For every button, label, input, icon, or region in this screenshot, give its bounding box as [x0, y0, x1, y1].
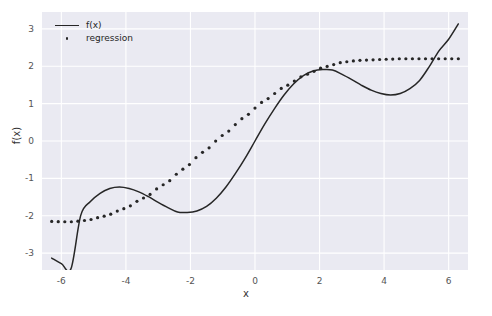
x-tick-label: 2 [317, 276, 323, 286]
x-axis-label: x [0, 288, 492, 299]
plot-area: f(x) regression [42, 12, 468, 270]
legend-entry-regression: regression [54, 32, 133, 45]
y-tick-label: -2 [8, 211, 34, 221]
y-tick-label: -3 [8, 248, 34, 258]
legend-entry-fx: f(x) [54, 19, 133, 32]
x-tick-label: -4 [121, 276, 130, 286]
legend-label-fx: f(x) [86, 19, 102, 32]
line-swatch-icon [54, 25, 80, 27]
x-tick-label: 6 [446, 276, 452, 286]
dot-swatch-icon [54, 37, 80, 40]
y-tick-label: 3 [8, 24, 34, 34]
plot-canvas [42, 12, 468, 270]
x-tick-label: -2 [186, 276, 195, 286]
legend-label-regression: regression [86, 32, 133, 45]
chart-figure: f(x) regression 3210-1-2-3 -6-4-20246 x … [0, 0, 492, 316]
y-axis-label: f(x) [11, 106, 22, 166]
x-tick-label: 0 [252, 276, 258, 286]
y-tick-label: -1 [8, 173, 34, 183]
legend: f(x) regression [50, 16, 141, 49]
x-tick-label: -6 [57, 276, 66, 286]
x-tick-label: 4 [381, 276, 387, 286]
y-tick-label: 2 [8, 61, 34, 71]
